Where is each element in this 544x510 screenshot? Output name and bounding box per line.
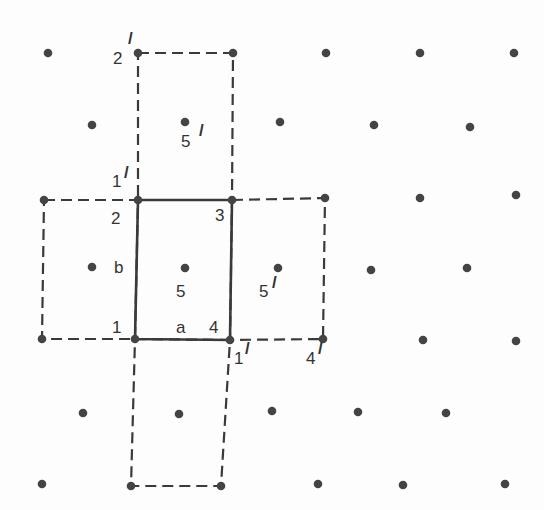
- point-label: /: [128, 29, 133, 48]
- lattice-point: [228, 196, 237, 205]
- lattice-point: [416, 194, 425, 203]
- lattice-point: [442, 409, 451, 418]
- point-label: /: [318, 339, 323, 358]
- lattice-point: [512, 191, 521, 200]
- point-label: 5: [259, 282, 268, 301]
- lattice-point: [367, 266, 376, 275]
- lattice-point: [354, 408, 363, 417]
- point-label: /: [245, 339, 250, 358]
- point-label: b: [114, 258, 123, 277]
- point-label: 3: [215, 206, 224, 225]
- lattice-point: [181, 118, 190, 127]
- lattice-point: [370, 121, 379, 130]
- dashed-cell: [138, 53, 233, 200]
- lattice-point: [127, 482, 136, 491]
- point-label: 1: [112, 318, 121, 337]
- lattice-diagram: 2/5/1/23b55/1a41/4/: [0, 0, 544, 510]
- lattice-point: [466, 123, 475, 132]
- lattice-point: [399, 481, 408, 490]
- lattice-point: [134, 196, 143, 205]
- point-label: 4: [209, 318, 218, 337]
- point-label: 1: [112, 172, 121, 191]
- lattice-point: [274, 264, 283, 273]
- lattice-point: [88, 263, 97, 272]
- point-label: 2: [113, 49, 122, 68]
- lattice-point: [38, 480, 47, 489]
- point-label: 1: [234, 349, 243, 368]
- lattice-point: [463, 264, 472, 273]
- lattice-point: [181, 264, 190, 273]
- point-label: 5: [176, 282, 185, 301]
- point-label: /: [124, 163, 129, 182]
- lattice-point: [268, 407, 277, 416]
- point-label: 4: [306, 349, 315, 368]
- point-label: /: [199, 121, 204, 140]
- lattice-point: [322, 49, 331, 58]
- point-label: 2: [111, 209, 120, 228]
- lattice-point: [226, 336, 235, 345]
- lattice-points: [38, 49, 521, 491]
- lattice-point: [175, 410, 184, 419]
- lattice-point: [512, 337, 521, 346]
- lattice-point: [40, 196, 49, 205]
- lattice-point: [416, 49, 425, 58]
- point-label: 5: [181, 132, 190, 151]
- lattice-point: [38, 335, 47, 344]
- point-label: a: [176, 318, 186, 337]
- point-label: /: [272, 273, 277, 292]
- lattice-point: [44, 49, 53, 58]
- lattice-point: [510, 49, 519, 58]
- lattice-point: [321, 194, 330, 203]
- lattice-point: [229, 49, 238, 58]
- lattice-point: [276, 118, 285, 127]
- lattice-point: [88, 121, 97, 130]
- lattice-point: [217, 482, 226, 491]
- lattice-svg: 2/5/1/23b55/1a41/4/: [0, 0, 544, 510]
- lattice-point: [314, 480, 323, 489]
- lattice-point: [419, 336, 428, 345]
- lattice-point: [501, 480, 510, 489]
- lattice-point: [131, 335, 140, 344]
- lattice-point: [79, 409, 88, 418]
- lattice-point: [134, 49, 143, 58]
